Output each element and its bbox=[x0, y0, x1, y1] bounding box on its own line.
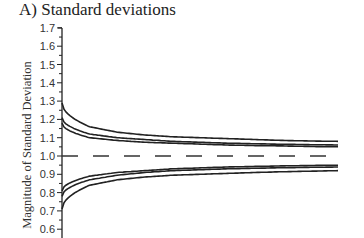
y-tick-label: 1.1 bbox=[40, 132, 55, 144]
y-tick-label: 0.9 bbox=[40, 168, 55, 180]
series-line-lower-3 bbox=[62, 171, 338, 210]
y-tick-label: 1.3 bbox=[40, 95, 55, 107]
line-chart: 1.71.61.51.41.31.21.11.00.90.80.70.6 bbox=[0, 0, 364, 238]
y-axis: 1.71.61.51.41.31.21.11.00.90.80.70.6 bbox=[40, 22, 62, 238]
y-tick-label: 0.6 bbox=[40, 223, 55, 235]
y-tick-label: 1.2 bbox=[40, 113, 55, 125]
y-tick-label: 1.6 bbox=[40, 40, 55, 52]
series-line-upper-3 bbox=[62, 123, 338, 147]
y-tick-label: 1.5 bbox=[40, 59, 55, 71]
y-tick-label: 0.7 bbox=[40, 205, 55, 217]
y-tick-label: 1.7 bbox=[40, 22, 55, 34]
y-tick-label: 0.8 bbox=[40, 187, 55, 199]
y-tick-label: 1.0 bbox=[40, 150, 55, 162]
y-tick-label: 1.4 bbox=[40, 77, 55, 89]
